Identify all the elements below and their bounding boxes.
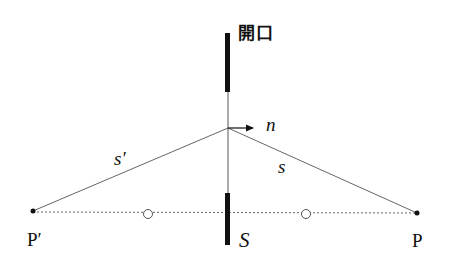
midpoint-circle-right [302, 210, 311, 219]
ray-s [228, 128, 417, 213]
s-label: s [278, 156, 285, 178]
midpoint-circle-left [144, 210, 153, 219]
normal-vector-label: n [266, 114, 276, 136]
p-prime-label: P′ [27, 229, 42, 251]
ray-s-prime [33, 128, 228, 211]
point-p-prime-dot [31, 209, 36, 214]
screen-label: S [239, 228, 250, 253]
aperture-label: 開口 [238, 19, 274, 44]
point-p-dot [415, 211, 420, 216]
s-prime-label: s′ [114, 148, 126, 170]
screen-top-bar [225, 33, 230, 92]
screen-bottom-bar [225, 193, 230, 245]
p-label: P [412, 230, 423, 252]
diagram-canvas [0, 0, 452, 268]
